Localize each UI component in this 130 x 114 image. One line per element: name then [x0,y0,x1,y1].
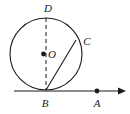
point-dot-A [95,89,100,94]
label-A: A [93,97,101,109]
geometry-figure: D O C B A [0,0,130,114]
label-C: C [83,35,91,47]
geometry-canvas: D O C B A [0,0,130,114]
label-B: B [42,97,49,109]
label-D: D [43,2,52,14]
arrowhead-icon [118,88,126,95]
center-dot-O [41,52,46,57]
label-O: O [48,48,56,60]
